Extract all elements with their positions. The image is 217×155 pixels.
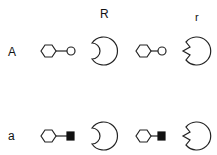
receptor-R-icon (92, 37, 117, 65)
ligand-a-icon (41, 130, 74, 142)
ligand-a-icon (136, 130, 165, 142)
receptor-r-icon (183, 122, 211, 150)
ligand-A-icon (41, 45, 75, 57)
receptor-r-icon (183, 37, 211, 65)
genotype-diagram (0, 0, 217, 155)
receptor-R-icon (92, 122, 117, 150)
ligand-A-icon (136, 45, 166, 57)
